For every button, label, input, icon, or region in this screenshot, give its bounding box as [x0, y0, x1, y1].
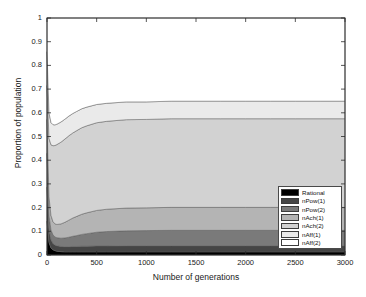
legend-label: nAff(2) — [302, 239, 320, 246]
legend-swatch — [281, 198, 299, 205]
legend-label: nAch(1) — [302, 214, 324, 221]
legend-label: Rational — [302, 189, 325, 196]
legend-item: nAch(2) — [280, 222, 340, 230]
legend-swatch — [281, 206, 299, 213]
legend-label: nPow(1) — [302, 197, 325, 204]
legend-swatch — [281, 214, 299, 221]
chart-legend: RationalnPow(1)nPow(2)nAch(1)nAch(2)nAff… — [278, 186, 342, 249]
legend-item: nPow(1) — [280, 197, 340, 205]
legend-swatch — [281, 231, 299, 238]
legend-swatch — [281, 223, 299, 230]
legend-label: nAff(1) — [302, 231, 320, 238]
legend-swatch — [281, 189, 299, 196]
legend-item: nAch(1) — [280, 214, 340, 222]
chart-figure: Proportion of population Number of gener… — [0, 0, 366, 297]
legend-item: nAff(2) — [280, 239, 340, 247]
legend-label: nPow(2) — [302, 206, 325, 213]
stacked-area-plot — [0, 0, 366, 297]
legend-item: nPow(2) — [280, 205, 340, 213]
legend-swatch — [281, 239, 299, 246]
legend-item: nAff(1) — [280, 230, 340, 238]
legend-item: Rational — [280, 188, 340, 196]
legend-label: nAch(2) — [302, 222, 324, 229]
